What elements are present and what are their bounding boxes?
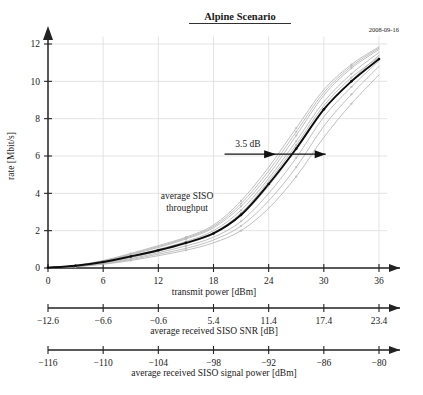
run-marker: [350, 77, 352, 79]
x-tick-label: 12: [154, 276, 164, 286]
secondary-tick-label: 5.4: [208, 316, 220, 326]
run-marker: [185, 249, 187, 251]
y-axis-arrowhead: [43, 26, 53, 40]
average-marker: [350, 80, 353, 83]
secondary-tick-label: −0.6: [150, 316, 167, 326]
x-tick-label: 18: [209, 276, 219, 286]
secondary-axis-signal-power: −116−110−104−98−92−86−80 average receive…: [38, 346, 400, 378]
average-marker: [102, 261, 105, 264]
average-marker: [74, 264, 77, 267]
average-marker: [47, 266, 50, 269]
secondary-axis-snr: −12.6−6.6−0.65.411.417.423.4 average rec…: [37, 304, 400, 336]
chart-title-group: Alpine Scenario: [189, 11, 291, 24]
secondary-tick-label: −104: [149, 358, 169, 368]
average-marker: [240, 214, 243, 217]
sigpow-axis-title: average received SISO signal power [dBm]: [131, 368, 296, 378]
run-marker: [240, 220, 242, 222]
run-marker: [295, 131, 297, 133]
secondary-tick-label: −86: [316, 358, 331, 368]
run-marker: [130, 253, 132, 255]
callout-line-1: average SISO: [161, 191, 214, 201]
primary-y-axis: 024681012 rate [Mbit/s]: [6, 26, 53, 273]
snr-axis-title: average received SISO SNR [dB]: [150, 326, 278, 336]
x-tick-label: 36: [374, 276, 384, 286]
average-throughput-callout: average SISO throughput: [161, 191, 214, 213]
secondary-tick-label: −6.6: [95, 316, 112, 326]
y-tick-label: 8: [35, 114, 40, 124]
secondary-tick-label: 11.4: [261, 316, 278, 326]
x-tick-label: 24: [264, 276, 274, 286]
run-marker: [185, 245, 187, 247]
average-marker: [129, 255, 132, 258]
run-marker: [240, 203, 242, 205]
run-marker: [295, 157, 297, 159]
y-tick-label: 6: [35, 151, 40, 161]
x-tick-label: 30: [319, 276, 329, 286]
x-axis-title: transmit power [dBm]: [172, 287, 256, 297]
secondary-tick-label: 23.4: [371, 316, 388, 326]
primary-x-axis: 061218243036 transmit power [dBm]: [46, 264, 400, 297]
run-marker: [350, 103, 352, 105]
x-tick-label: 0: [46, 276, 51, 286]
run-marker: [295, 166, 297, 168]
run-marker: [295, 140, 297, 142]
x-tick-label: 6: [101, 276, 106, 286]
average-marker: [323, 108, 326, 111]
date-stamp: 2008-09-16: [369, 26, 400, 33]
run-marker: [240, 200, 242, 202]
sigpow-axis-arrowhead: [389, 346, 400, 354]
run-marker: [240, 230, 242, 232]
average-marker: [267, 183, 270, 186]
secondary-tick-label: 17.4: [316, 316, 333, 326]
secondary-tick-label: −110: [94, 358, 114, 368]
gridlines: [48, 37, 387, 268]
run-marker: [240, 205, 242, 207]
run-marker: [350, 86, 352, 88]
run-marker: [240, 209, 242, 211]
secondary-tick-label: −12.6: [37, 316, 59, 326]
run-marker: [350, 73, 352, 75]
average-marker: [157, 249, 160, 252]
gain-annotation: 3.5 dB: [225, 139, 326, 158]
y-axis-ticks: 024681012: [31, 39, 53, 273]
run-marker: [295, 144, 297, 146]
secondary-tick-label: −80: [372, 358, 387, 368]
callout-line-2: throughput: [166, 203, 208, 213]
secondary-tick-label: −98: [206, 358, 221, 368]
page-title: Alpine Scenario: [204, 11, 275, 22]
y-tick-label: 2: [35, 226, 40, 236]
snr-axis-arrowhead: [389, 304, 400, 312]
secondary-tick-label: −116: [38, 358, 58, 368]
chart-figure: 061218243036 transmit power [dBm] 024681…: [0, 0, 423, 395]
gain-annotation-label: 3.5 dB: [235, 139, 260, 149]
y-tick-label: 10: [31, 77, 41, 87]
run-marker: [350, 93, 352, 95]
run-marker: [130, 259, 132, 261]
run-marker: [185, 237, 187, 239]
average-marker: [378, 58, 381, 61]
average-marker: [295, 147, 298, 150]
run-marker: [295, 175, 297, 177]
y-tick-label: 4: [35, 189, 40, 199]
run-marker: [240, 225, 242, 227]
average-marker: [185, 242, 188, 245]
secondary-tick-label: −92: [261, 358, 276, 368]
y-tick-label: 12: [31, 39, 41, 49]
run-marker: [295, 134, 297, 136]
alpine-scenario-chart: 061218243036 transmit power [dBm] 024681…: [0, 0, 423, 395]
gain-arrowhead-right: [264, 150, 276, 158]
run-marker: [295, 127, 297, 129]
x-axis-arrowhead: [389, 264, 400, 272]
y-tick-label: 0: [35, 263, 40, 273]
average-marker: [212, 232, 215, 235]
run-marker: [350, 65, 352, 67]
y-axis-title: rate [Mbit/s]: [6, 132, 16, 180]
